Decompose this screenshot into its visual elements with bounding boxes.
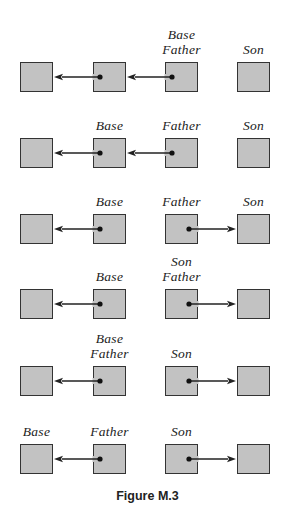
pointer-origin-dot-icon (97, 150, 102, 155)
arrowhead-icon (54, 150, 63, 156)
pointer-origin-dot-icon (97, 456, 102, 461)
pointer-origin-dot-icon (97, 74, 102, 79)
arrowhead-icon (54, 378, 63, 384)
pointer-origin-dot-icon (186, 226, 191, 231)
arrowhead-icon (227, 226, 236, 232)
pointer-origin-dot-icon (186, 456, 191, 461)
arrowhead-icon (54, 226, 63, 232)
pointer-origin-dot-icon (97, 301, 102, 306)
pointer-origin-dot-icon (97, 226, 102, 231)
pointer-origin-dot-icon (97, 378, 102, 383)
arrowhead-icon (54, 74, 63, 80)
pointer-arrows-layer (0, 0, 295, 525)
arrowhead-icon (227, 456, 236, 462)
pointer-origin-dot-icon (169, 74, 174, 79)
pointer-origin-dot-icon (186, 378, 191, 383)
linked-list-diagram: Figure M.3 BaseFatherSonBaseFatherSonBas… (0, 0, 295, 525)
arrowhead-icon (127, 150, 136, 156)
arrowhead-icon (227, 378, 236, 384)
arrowhead-icon (227, 301, 236, 307)
arrowhead-icon (54, 301, 63, 307)
arrowhead-icon (54, 456, 63, 462)
arrowhead-icon (127, 74, 136, 80)
pointer-origin-dot-icon (186, 301, 191, 306)
pointer-origin-dot-icon (169, 150, 174, 155)
